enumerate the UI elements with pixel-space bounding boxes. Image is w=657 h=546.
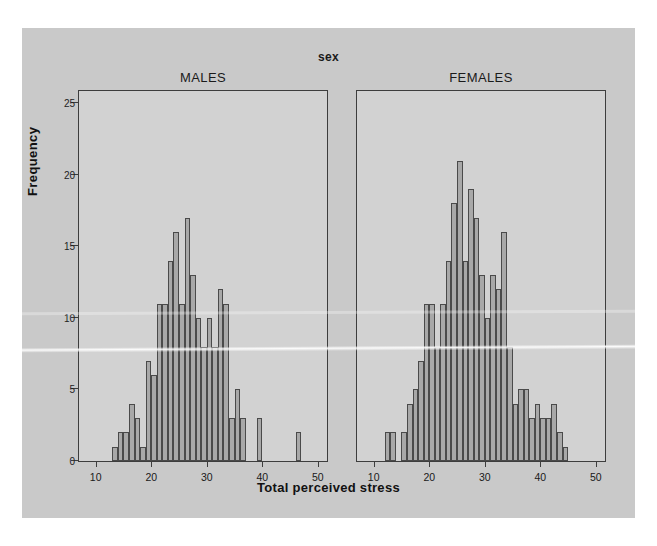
x-axis-tick [96,461,97,467]
x-axis-tick-label: 40 [249,471,275,483]
y-axis-label: Frequency [25,127,40,196]
x-axis-tick-label: 40 [527,471,553,483]
x-axis-tick-label: 30 [472,471,498,483]
y-axis-tick-label: 25 [45,98,75,109]
panel-title-females: FEMALES [356,70,606,85]
x-axis-tick [151,461,152,467]
histogram-bar [257,418,263,461]
panel-title-males: MALES [78,70,328,85]
y-axis-tick-label: 0 [45,456,75,467]
histogram-panel-males: 0510152025 1020304050 [78,90,328,462]
y-axis-tick-label: 5 [45,384,75,395]
x-axis-tick [596,461,597,467]
bar-series-males [79,91,327,461]
chart-screenshot: sex Frequency Total perceived stress MAL… [0,0,657,546]
x-axis-tick-label: 30 [194,471,220,483]
x-axis-tick [374,461,375,467]
x-axis-tick-label: 10 [83,471,109,483]
x-axis-tick-label: 20 [138,471,164,483]
histogram-bar [563,447,569,461]
histogram-bar [390,432,396,461]
x-axis-tick [540,461,541,467]
x-axis-tick-label: 20 [416,471,442,483]
y-axis-tick-label: 20 [45,170,75,181]
x-axis-tick [485,461,486,467]
chart-title: sex [22,50,635,64]
plot-area-females: 1020304050 [357,91,605,461]
bar-series-females [357,91,605,461]
histogram-bar [296,432,302,461]
chart-figure: sex Frequency Total perceived stress MAL… [22,28,635,518]
x-axis-tick [429,461,430,467]
y-axis-tick-label: 10 [45,313,75,324]
x-axis-tick-label: 50 [583,471,609,483]
x-axis-tick-label: 50 [305,471,331,483]
histogram-bar [240,418,246,461]
y-axis-tick-label: 15 [45,241,75,252]
plot-area-males: 0510152025 1020304050 [79,91,327,461]
x-axis-tick [318,461,319,467]
x-axis-tick-label: 10 [361,471,387,483]
x-axis-tick [262,461,263,467]
x-axis-tick [207,461,208,467]
histogram-panel-females: 1020304050 [356,90,606,462]
